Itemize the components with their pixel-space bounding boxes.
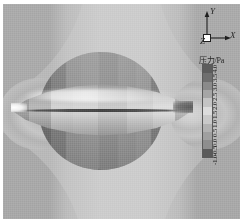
body-surface-group (11, 51, 193, 173)
spindle-centerline-seam (17, 109, 187, 112)
tail-tip (173, 101, 193, 113)
colorbar-tick: 1.5 (212, 111, 219, 119)
colorbar-tick: 3.0 (212, 84, 219, 92)
colorbar-tick: 4.0 (212, 65, 219, 73)
axis-label-y: Y (210, 7, 215, 16)
figure-screenshot: Y X Z 压力/Pa 4.03.53.02.52.01.51.00.50.0-… (0, 0, 243, 223)
colorbar-tick-labels: 4.03.53.02.52.01.51.00.50.0-0.5-1.0 (212, 62, 224, 158)
coordinate-axes: Y X Z (196, 8, 238, 46)
colorbar-tick: 1.0 (212, 120, 219, 128)
nose-stagnation-point (11, 103, 27, 112)
colorbar-tick: 2.5 (212, 93, 219, 101)
spindle-highlight (23, 89, 181, 102)
colorbar-tick: 0.5 (212, 130, 219, 138)
colorbar-tick: 3.5 (212, 74, 219, 82)
axis-label-x: X (230, 31, 236, 40)
colorbar-legend: 压力/Pa 4.03.53.02.52.01.51.00.50.0-0.5-1.… (197, 54, 241, 158)
colorbar-tick: -1.0 (212, 155, 219, 165)
axis-label-z: Z (200, 37, 205, 46)
colorbar-tick: 2.0 (212, 102, 219, 110)
